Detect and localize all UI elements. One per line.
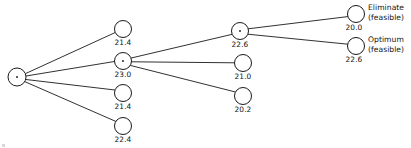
node-22-4-circle[interactable] (115, 118, 132, 135)
node-21-0-circle[interactable] (235, 55, 252, 72)
node-21-0-value: 21.0 (235, 72, 252, 81)
edge-23-0-to-22-6 (131, 34, 232, 58)
node-20-2[interactable]: 20.2 (235, 88, 252, 115)
edges-group (25, 17, 348, 122)
node-22-6-value: 22.6 (232, 40, 249, 49)
node-22-6-optimum[interactable]: 22.6 (346, 38, 365, 65)
node-21-4-b[interactable]: 21.4 (115, 85, 132, 112)
edge-root-to-22-4 (25, 82, 116, 122)
edge-23-0-to-21-0 (132, 62, 235, 63)
node-root-dot-icon (16, 76, 18, 78)
node-22-6-optimum-value: 22.6 (346, 55, 363, 64)
node-21-0[interactable]: 21.0 (235, 55, 252, 82)
branch-and-bound-tree-figure: 21.4 23.0 21.4 22.4 22.6 (0, 0, 411, 148)
edge-22-6-to-20-0 (248, 17, 348, 29)
nodes-group: 21.4 23.0 21.4 22.4 22.6 (8, 6, 365, 145)
node-20-0-circle[interactable] (348, 6, 365, 23)
node-21-4-a-circle[interactable] (115, 21, 132, 38)
node-21-4-a[interactable]: 21.4 (115, 21, 132, 48)
node-21-4-a-value: 21.4 (115, 38, 132, 47)
node-21-4-b-value: 21.4 (115, 102, 132, 111)
node-20-0[interactable]: 20.0 (346, 6, 365, 33)
annotations-group: Eliminate (feasible) Optimum (feasible) (368, 3, 404, 54)
edge-root-to-23-0 (26, 62, 115, 77)
eliminate-annotation-line2: (feasible) (368, 13, 404, 22)
node-23-0[interactable]: 23.0 (115, 53, 132, 80)
node-22-6[interactable]: 22.6 (232, 23, 249, 50)
node-23-0-value: 23.0 (115, 70, 132, 79)
eliminate-annotation-line1: Eliminate (368, 3, 404, 12)
node-23-0-dot-icon (122, 60, 124, 62)
tree-diagram-canvas: 21.4 23.0 21.4 22.4 22.6 (0, 0, 411, 148)
node-22-4[interactable]: 22.4 (115, 118, 132, 145)
node-20-2-circle[interactable] (235, 88, 252, 105)
node-20-0-value: 20.0 (346, 23, 363, 32)
node-20-2-value: 20.2 (235, 105, 252, 114)
edge-root-to-21-4-a (26, 33, 115, 74)
optimum-annotation-line1: Optimum (368, 35, 404, 44)
scan-artifact-speck (2, 144, 5, 147)
optimum-annotation-line2: (feasible) (368, 45, 404, 54)
edge-23-0-to-20-2 (131, 66, 236, 93)
node-root[interactable] (8, 68, 26, 86)
edge-22-6-to-22-6-optimum (248, 34, 348, 44)
node-22-6-optimum-circle[interactable] (348, 38, 365, 55)
node-22-6-dot-icon (239, 30, 241, 32)
node-22-4-value: 22.4 (115, 135, 132, 144)
node-21-4-b-circle[interactable] (115, 85, 132, 102)
